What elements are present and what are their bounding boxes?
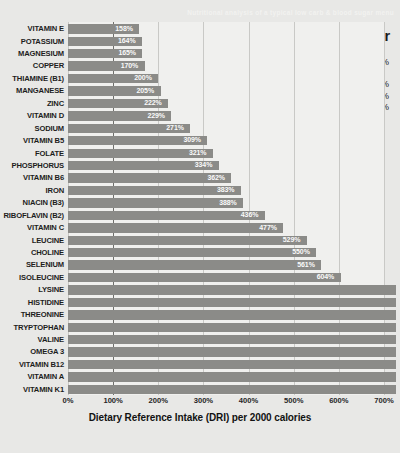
bar-container: 309% — [68, 136, 384, 145]
bar — [68, 298, 396, 307]
category-label: VITAMIN B6 — [0, 173, 64, 183]
bar-value-label: 388% — [219, 199, 237, 208]
category-label: FOLATE — [0, 149, 64, 159]
bar-container: 334% — [68, 161, 384, 170]
bar-value-label: 436% — [241, 211, 259, 220]
category-label: RIBOFLAVIN (B2) — [0, 211, 64, 221]
bar-value-label: 170% — [121, 62, 139, 71]
category-label: LYSINE — [0, 285, 64, 295]
category-label: VITAMIN D — [0, 111, 64, 121]
category-label: VITAMIN B12 — [0, 360, 64, 370]
axis-tick-200: 200% — [149, 396, 168, 405]
bar-container — [68, 347, 384, 356]
x-axis: 0%100%200%300%400%500%600%700% — [68, 396, 384, 410]
bar-value-label: 561% — [297, 261, 315, 270]
category-label: VITAMIN K1 — [0, 385, 64, 395]
category-label: LEUCINE — [0, 236, 64, 246]
bar-container — [68, 385, 384, 394]
bar-container: 222% — [68, 99, 384, 108]
category-label: PHOSPHORUS — [0, 161, 64, 171]
bar-container — [68, 323, 384, 332]
bar-container: 158% — [68, 24, 384, 33]
bar-container: 436% — [68, 211, 384, 220]
x-axis-title: Dietary Reference Intake (DRI) per 2000 … — [0, 412, 400, 423]
bar-container: 550% — [68, 248, 384, 257]
category-label: SELENIUM — [0, 260, 64, 270]
axis-tick-300: 300% — [194, 396, 213, 405]
category-label: SODIUM — [0, 124, 64, 134]
bar — [68, 385, 396, 394]
category-label: MAGNESIUM — [0, 49, 64, 59]
bar — [68, 323, 396, 332]
bar-value-label: 362% — [207, 174, 225, 183]
bar-value-label: 200% — [134, 74, 152, 83]
category-label: COPPER — [0, 61, 64, 71]
axis-tick-700: 700% — [374, 396, 393, 405]
bar — [68, 211, 265, 220]
bar-value-label: 383% — [217, 186, 235, 195]
category-label: NIACIN (B3) — [0, 198, 64, 208]
bar-value-label: 604% — [317, 273, 335, 282]
axis-tick-100: 100% — [103, 396, 122, 405]
bar — [68, 223, 283, 232]
category-label: THREONINE — [0, 310, 64, 320]
category-label: OMEGA 3 — [0, 347, 64, 357]
bar — [68, 335, 396, 344]
axis-tick-0: 0% — [63, 396, 74, 405]
bar-value-label: 550% — [292, 248, 310, 257]
bar — [68, 360, 396, 369]
bar-value-label: 164% — [118, 37, 136, 46]
bar-rows: VITAMIN E158%POTASSIUM164%MAGNESIUM165%C… — [0, 22, 400, 395]
bar-value-label: 321% — [189, 149, 207, 158]
category-label: VITAMIN A — [0, 372, 64, 382]
bar-container — [68, 285, 384, 294]
bar-container: 170% — [68, 61, 384, 70]
axis-tick-500: 500% — [284, 396, 303, 405]
category-label: POTASSIUM — [0, 37, 64, 47]
category-label: CHOLINE — [0, 248, 64, 258]
bar — [68, 310, 396, 319]
category-label: ZINC — [0, 99, 64, 109]
category-label: HISTIDINE — [0, 298, 64, 308]
bar-container: 604% — [68, 273, 384, 282]
category-label: IRON — [0, 186, 64, 196]
bar-container — [68, 360, 384, 369]
category-label: VITAMIN E — [0, 24, 64, 34]
bar-container — [68, 310, 384, 319]
bar-container: 200% — [68, 74, 384, 83]
bar-value-label: 271% — [166, 124, 184, 133]
bar — [68, 248, 316, 257]
bar-value-label: 222% — [144, 99, 162, 108]
watermark-text: Nutritional analysis of a typical low ca… — [187, 9, 394, 16]
bar — [68, 236, 307, 245]
bar — [68, 198, 243, 207]
axis-tick-600: 600% — [329, 396, 348, 405]
bar-container: 388% — [68, 198, 384, 207]
bar-container: 321% — [68, 149, 384, 158]
bar-container: 165% — [68, 49, 384, 58]
bar-container: 229% — [68, 111, 384, 120]
category-label: VITAMIN C — [0, 223, 64, 233]
bar — [68, 260, 321, 269]
category-label: MANGANESE — [0, 86, 64, 96]
bar-value-label: 477% — [259, 224, 277, 233]
axis-tick-400: 400% — [239, 396, 258, 405]
bar — [68, 372, 396, 381]
bar-value-label: 205% — [137, 87, 155, 96]
bar-container: 383% — [68, 186, 384, 195]
bar-container: 205% — [68, 86, 384, 95]
bar-container: 362% — [68, 173, 384, 182]
category-label: VALINE — [0, 335, 64, 345]
bar-value-label: 334% — [195, 161, 213, 170]
bar — [68, 347, 396, 356]
bar-container: 477% — [68, 223, 384, 232]
chart-screenshot: Nutritional analysis of a typical low ca… — [0, 0, 400, 453]
bar-container — [68, 372, 384, 381]
category-label: TRYPTOPHAN — [0, 323, 64, 333]
bar-container: 164% — [68, 37, 384, 46]
bar-container — [68, 298, 384, 307]
bar-container: 561% — [68, 260, 384, 269]
bar-row: VITAMIN K1 — [0, 383, 400, 397]
bar — [68, 186, 241, 195]
bar-value-label: 229% — [147, 112, 165, 121]
